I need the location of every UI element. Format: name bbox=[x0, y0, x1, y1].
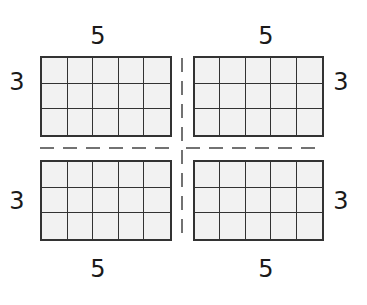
dashed-separators bbox=[0, 0, 367, 305]
